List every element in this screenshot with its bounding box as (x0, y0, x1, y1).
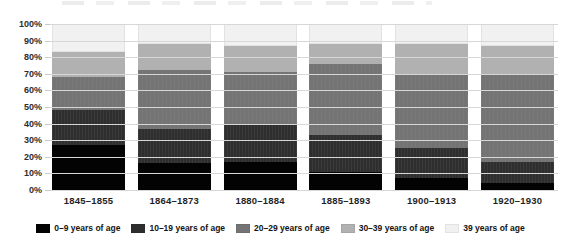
segment-0-9-years (52, 145, 125, 190)
segment-39-years (481, 24, 554, 46)
gridline-90% (50, 41, 558, 42)
y-tick (45, 57, 50, 58)
y-tick (45, 41, 50, 42)
legend-label: 39 years of age (463, 223, 524, 233)
segment-39-years (52, 24, 125, 52)
legend-swatch-icon (341, 224, 355, 233)
gridline-30% (50, 140, 558, 141)
segment-0-9-years (224, 162, 297, 190)
y-tick (45, 124, 50, 125)
y-tick-label: 60% (2, 85, 42, 95)
legend-item: 30–39 years of age (341, 223, 435, 233)
legend-item: 39 years of age (445, 223, 524, 233)
segment-20-29-years (481, 75, 554, 161)
y-tick (45, 190, 50, 191)
y-tick (45, 107, 50, 108)
x-axis-label: 1900–1913 (395, 195, 468, 206)
x-axis-label: 1920–1930 (481, 195, 554, 206)
gridline-100% (50, 24, 558, 25)
segment-39-years (224, 24, 297, 46)
segment-0-9-years (309, 172, 382, 190)
gridline-40% (50, 124, 558, 125)
y-tick (45, 90, 50, 91)
segment-0-9-years (138, 163, 211, 190)
legend-swatch-icon (445, 224, 459, 233)
legend-item: 10–19 years of age (131, 223, 225, 233)
y-tick-label: 50% (2, 102, 42, 112)
legend-label: 20–29 years of age (254, 223, 330, 233)
y-tick-label: 10% (2, 168, 42, 178)
legend: 0–9 years of age10–19 years of age20–29 … (0, 223, 561, 233)
y-tick-label: 90% (2, 36, 42, 46)
y-tick (45, 74, 50, 75)
gridline-0% (50, 190, 558, 191)
plot-area (50, 24, 558, 190)
segment-10-19-years (138, 129, 211, 164)
x-axis-label: 1845–1855 (52, 195, 125, 206)
legend-swatch-icon (236, 224, 250, 233)
y-tick-label: 70% (2, 69, 42, 79)
segment-20-29-years (224, 72, 297, 125)
gridline-70% (50, 74, 558, 75)
legend-label: 30–39 years of age (359, 223, 435, 233)
segment-20-29-years (138, 70, 211, 128)
y-tick-label: 30% (2, 135, 42, 145)
y-tick-label: 80% (2, 52, 42, 62)
y-axis: 100%90%80%70%60%50%40%30%20%10%0% (0, 24, 46, 190)
y-tick-label: 0% (2, 185, 42, 195)
segment-20-29-years (395, 74, 468, 149)
gridline-60% (50, 90, 558, 91)
y-tick (45, 173, 50, 174)
segment-30-39-years (481, 46, 554, 76)
gridline-50% (50, 107, 558, 108)
segment-30-39-years (309, 44, 382, 64)
y-tick (45, 24, 50, 25)
y-tick-label: 20% (2, 152, 42, 162)
legend-swatch-icon (131, 224, 145, 233)
x-axis-labels: 1845–18551864–18731880–18841885–18931900… (52, 195, 554, 206)
chart-canvas: 100%90%80%70%60%50%40%30%20%10%0% 1845–1… (0, 0, 561, 246)
y-tick (45, 140, 50, 141)
segment-0-9-years (395, 178, 468, 190)
y-tick-label: 40% (2, 119, 42, 129)
gridline-10% (50, 173, 558, 174)
legend-swatch-icon (36, 224, 50, 233)
y-tick-label: 100% (2, 19, 42, 29)
y-tick (45, 157, 50, 158)
legend-item: 0–9 years of age (36, 223, 120, 233)
legend-label: 0–9 years of age (54, 223, 120, 233)
segment-30-39-years (224, 46, 297, 73)
x-axis-label: 1885–1893 (309, 195, 382, 206)
legend-item: 20–29 years of age (236, 223, 330, 233)
segment-30-39-years (395, 44, 468, 74)
gridline-80% (50, 57, 558, 58)
x-axis-label: 1880–1884 (224, 195, 297, 206)
segment-0-9-years (481, 183, 554, 190)
gridline-20% (50, 157, 558, 158)
legend-label: 10–19 years of age (149, 223, 225, 233)
cropped-title-fragment (62, 1, 432, 5)
segment-20-29-years (52, 77, 125, 110)
x-axis-label: 1864–1873 (138, 195, 211, 206)
